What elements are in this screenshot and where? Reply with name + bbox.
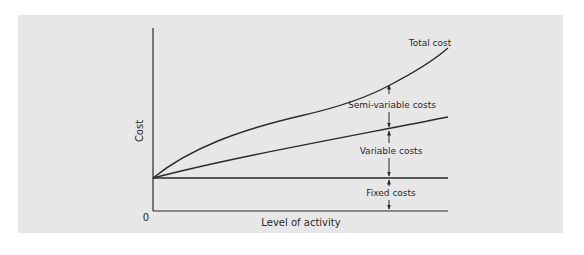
total-cost-label: Total cost (408, 38, 452, 48)
variable-costs-label: Variable costs (360, 146, 423, 156)
y-axis-label: Cost (134, 120, 145, 142)
x-axis-label: Level of activity (261, 217, 340, 228)
cost-behaviour-diagram: Total cost Semi-variable costs Variable … (0, 0, 584, 255)
origin-label: 0 (143, 212, 149, 223)
total-cost-curve (153, 48, 448, 178)
semi-variable-costs-label: Semi-variable costs (348, 100, 436, 110)
fixed-costs-label: Fixed costs (366, 188, 416, 198)
